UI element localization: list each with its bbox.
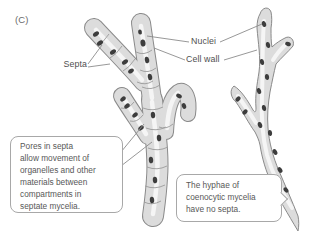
- leader-line-septa-1: [88, 45, 102, 64]
- septa-pores-callout-text: Pores in septa allow movement of organel…: [11, 137, 122, 215]
- leader-line-cellwall-right: [224, 50, 257, 60]
- cell-wall-label: Cell wall: [186, 54, 220, 64]
- nuclei-label: Nuclei: [191, 36, 216, 46]
- septa-pores-callout: Pores in septa allow movement of organel…: [10, 136, 123, 213]
- coenocytic-callout: The hyphae of coenocytic mycelia have no…: [176, 174, 282, 222]
- leader-line-cellwall-left: [154, 48, 185, 60]
- septa-label: Septa: [40, 59, 87, 69]
- coenocytic-callout-text: The hyphae of coenocytic mycelia have no…: [177, 175, 281, 219]
- leader-line-nuclei-right: [220, 24, 262, 42]
- leader-line-septa-2: [88, 64, 110, 67]
- mycelium-figure: (C) Septa Nuclei Cell wall Pores in sept…: [0, 0, 315, 236]
- panel-label: (C): [15, 14, 29, 25]
